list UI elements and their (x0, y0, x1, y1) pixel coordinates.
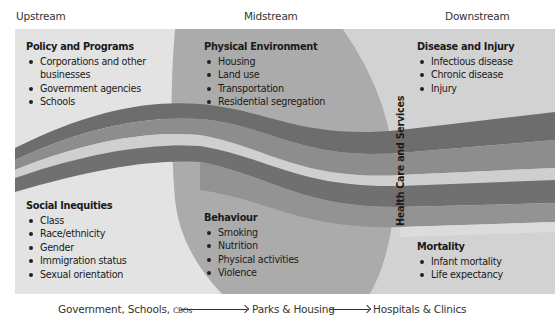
box-title: Mortality (417, 240, 547, 254)
list-item: Violence (204, 266, 344, 280)
list-item: Chronic disease (417, 68, 547, 82)
list-item: Life expectancy (417, 268, 547, 282)
list-item: Residential segregation (204, 95, 354, 109)
list-item: Class (26, 214, 156, 228)
bottom-upstream-label: Government, Schools, CBOs (58, 303, 192, 315)
list-item: Physical activities (204, 253, 344, 267)
list-item: Smoking (204, 226, 344, 240)
bottom-flow-row: Government, Schools, CBOs Parks & Housin… (0, 303, 560, 319)
arrow-right-icon (330, 309, 369, 310)
bottom-midstream-label: Parks & Housing (252, 303, 335, 315)
list-item: Gender (26, 241, 156, 255)
arrow-right-icon (181, 309, 247, 310)
list-item: Immigration status (26, 254, 156, 268)
physical-environment-box: Physical Environment Housing Land use Tr… (204, 40, 354, 109)
box-title: Policy and Programs (26, 40, 156, 54)
bottom-upstream-text: Government, Schools, (58, 303, 173, 315)
list-item: Race/ethnicity (26, 227, 156, 241)
box-title: Disease and Injury (417, 40, 547, 54)
box-title: Social Inequities (26, 199, 156, 213)
list-item: Nutrition (204, 239, 344, 253)
disease-and-injury-box: Disease and Injury Infectious disease Ch… (417, 40, 547, 95)
list-item: Transportation (204, 82, 354, 96)
box-title: Behaviour (204, 211, 344, 225)
health-care-services-label: Health Care and Services (395, 96, 406, 226)
policy-and-programs-box: Policy and Programs Corporations and oth… (26, 40, 156, 109)
list-item: Sexual orientation (26, 268, 156, 282)
list-item: Injury (417, 82, 547, 96)
social-inequities-box: Social Inequities Class Race/ethnicity G… (26, 199, 156, 282)
list-item: Land use (204, 68, 354, 82)
list-item: Infectious disease (417, 55, 547, 69)
bottom-upstream-cbos: CBOs (173, 306, 192, 315)
list-item: Infant mortality (417, 255, 547, 269)
bottom-downstream-label: Hospitals & Clinics (373, 303, 466, 315)
list-item: Corporations and other businesses (26, 55, 156, 82)
list-item: Government agencies (26, 82, 156, 96)
mortality-box: Mortality Infant mortality Life expectan… (417, 240, 547, 282)
behaviour-box: Behaviour Smoking Nutrition Physical act… (204, 211, 344, 280)
list-item: Schools (26, 95, 156, 109)
box-title: Physical Environment (204, 40, 354, 54)
list-item: Housing (204, 55, 354, 69)
